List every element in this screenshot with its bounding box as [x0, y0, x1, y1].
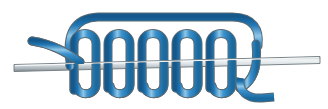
knot-diagram-figure: Nail knot coil wrap diagram: [0, 0, 328, 109]
knot-illustration: [0, 0, 328, 109]
